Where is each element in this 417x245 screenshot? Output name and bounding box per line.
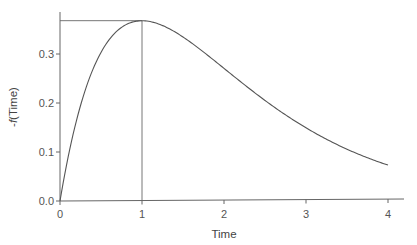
x-tick-label: 0 bbox=[57, 208, 63, 220]
x-tick-label: 1 bbox=[139, 208, 145, 220]
x-axis-ticks: 01234 bbox=[57, 199, 391, 220]
x-axis-line bbox=[60, 199, 404, 201]
x-tick-label: 2 bbox=[221, 208, 227, 220]
y-tick-label: 0.2 bbox=[39, 97, 54, 109]
axes bbox=[60, 12, 404, 201]
y-tick-label: 0.3 bbox=[39, 48, 54, 60]
x-axis-title: Time bbox=[211, 228, 236, 240]
x-tick-label: 3 bbox=[303, 208, 309, 220]
y-axis-ticks: 0.00.10.20.3 bbox=[39, 48, 60, 207]
x-tick-label: 4 bbox=[385, 208, 391, 220]
data-curve bbox=[60, 21, 388, 201]
y-axis-title: -f(Time) bbox=[7, 87, 19, 127]
series-line bbox=[60, 21, 388, 201]
line-chart: 01234 0.00.10.20.3 Time -f(Time) bbox=[0, 0, 417, 245]
y-tick-label: 0.1 bbox=[39, 146, 54, 158]
reference-lines bbox=[60, 21, 142, 201]
y-tick-label: 0.0 bbox=[39, 195, 54, 207]
